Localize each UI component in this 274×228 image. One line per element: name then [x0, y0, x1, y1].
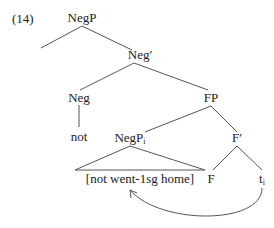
node-trace: ti — [259, 172, 265, 190]
example-number: (14) — [12, 11, 34, 27]
node-negp-i-label: NegP — [114, 130, 143, 145]
tree-lines — [0, 0, 274, 228]
node-neg-bar: Neg′ — [128, 48, 153, 62]
node-bracketed-phrase: [not went-1sg home] — [86, 172, 194, 186]
index-i: i — [143, 137, 145, 146]
trace-index: i — [263, 178, 265, 187]
node-fp: FP — [204, 91, 218, 105]
node-f: F — [207, 172, 214, 186]
node-neg: Neg — [68, 91, 90, 105]
node-not: not — [71, 130, 88, 144]
node-f-bar: F′ — [232, 131, 242, 145]
node-negp: NegP — [68, 11, 97, 25]
node-negp-i: NegPi — [114, 131, 145, 149]
